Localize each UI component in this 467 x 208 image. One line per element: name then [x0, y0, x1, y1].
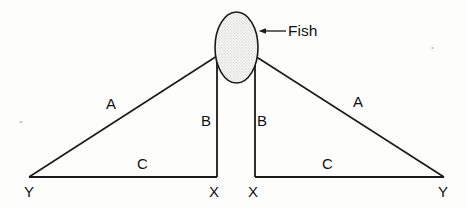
- segment-label-c-left: C: [137, 156, 148, 171]
- segment-label-a-right: A: [353, 94, 363, 109]
- segment-a-left-line: [29, 56, 217, 177]
- scan-speck: [431, 47, 434, 49]
- segment-a-right-line: [255, 56, 444, 177]
- vertex-label-y-left: Y: [24, 184, 34, 199]
- scan-speck: [19, 121, 23, 123]
- segment-label-b-left: B: [201, 113, 211, 128]
- arrow-left-icon: [259, 28, 267, 34]
- segment-label-a-left: A: [106, 96, 116, 111]
- segment-label-c-right: C: [322, 156, 333, 171]
- fish-ellipse: [215, 12, 258, 83]
- vertex-label-y-right: Y: [438, 184, 448, 199]
- vertex-label-x-right: X: [248, 184, 258, 199]
- fish-callout-label: Fish: [288, 23, 317, 39]
- vertex-label-x-left: X: [209, 184, 219, 199]
- diagram-canvas: [0, 0, 467, 208]
- segment-label-b-right: B: [257, 113, 267, 128]
- fish-triangulation-diagram: A B B A C C Y X X Y Fish: [0, 0, 467, 208]
